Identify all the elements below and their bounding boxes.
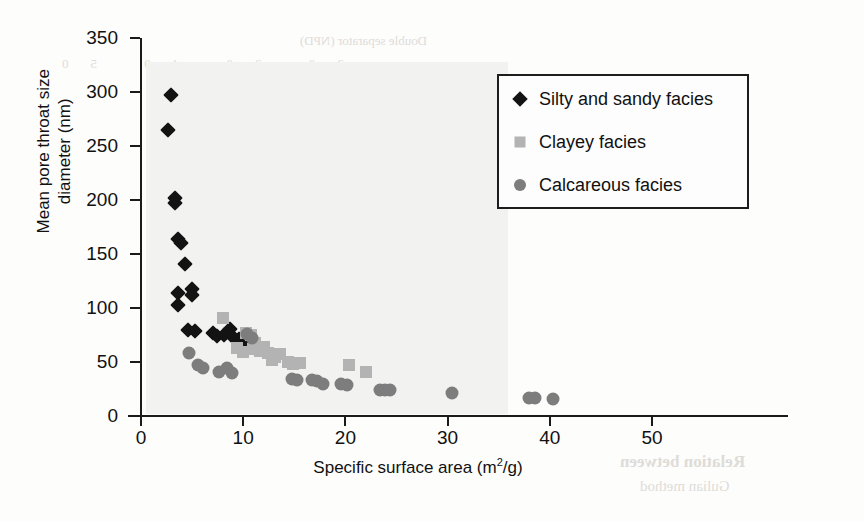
legend-square-marker-icon: [513, 135, 527, 149]
x-tick-mark: [242, 417, 244, 426]
x-axis-title-tail: /g): [503, 458, 523, 477]
y-tick-label: 150: [78, 244, 118, 263]
y-tick-label: 0: [78, 406, 118, 425]
y-tick-label: 50: [78, 352, 118, 371]
legend-entry-clayey-facies[interactable]: Clayey facies: [513, 133, 646, 151]
legend-entry-calcareous-facies[interactable]: Calcareous facies: [513, 176, 682, 194]
legend-label: Calcareous facies: [539, 176, 682, 194]
y-tick-label: 200: [78, 190, 118, 209]
y-tick-mark: [130, 307, 140, 309]
x-tick-label: 20: [315, 428, 375, 447]
y-axis-title-line2: diameter (nm): [55, 98, 74, 204]
data-point: [523, 391, 536, 404]
y-axis-line: [140, 38, 142, 417]
chart-legend: Silty and sandy facies Clayey facies Cal…: [497, 74, 749, 209]
y-tick-label: 300: [78, 82, 118, 101]
legend-label: Clayey facies: [539, 133, 646, 151]
x-tick-mark: [651, 417, 653, 426]
x-tick-label: 30: [418, 428, 478, 447]
legend-entry-silty-and-sandy-facies[interactable]: Silty and sandy facies: [513, 90, 713, 108]
y-tick-mark: [130, 37, 140, 39]
legend-diamond-marker-icon: [513, 92, 527, 106]
y-tick-mark: [130, 199, 140, 201]
x-tick-label: 0: [111, 428, 171, 447]
y-tick-mark: [130, 91, 140, 93]
x-axis-line: [128, 415, 788, 417]
y-tick-mark: [130, 145, 140, 147]
x-tick-label: 40: [520, 428, 580, 447]
y-tick-label: 100: [78, 298, 118, 317]
y-tick-label: 250: [78, 136, 118, 155]
data-point: [529, 391, 542, 404]
scatter-chart-figure: 050100150200250300350 01020304050 Mean p…: [0, 0, 864, 521]
x-axis-title: Specific surface area (m2/g): [238, 456, 598, 478]
y-tick-mark: [130, 361, 140, 363]
legend-circle-marker-icon: [513, 178, 527, 192]
y-tick-label: 350: [78, 28, 118, 47]
data-point: [546, 392, 559, 405]
y-tick-mark: [130, 415, 140, 417]
x-tick-mark: [344, 417, 346, 426]
x-tick-mark: [447, 417, 449, 426]
x-axis-title-base: Specific surface area (m: [313, 458, 496, 477]
y-tick-mark: [130, 253, 140, 255]
x-tick-label: 50: [622, 428, 682, 447]
y-axis-title: Mean pore throat size diameter (nm): [33, 1, 76, 301]
x-tick-mark: [549, 417, 551, 426]
x-tick-mark: [140, 417, 142, 426]
x-tick-label: 10: [213, 428, 273, 447]
legend-label: Silty and sandy facies: [539, 90, 713, 108]
y-axis-title-line1: Mean pore throat size: [34, 69, 53, 233]
plot-area-background: [146, 62, 508, 414]
